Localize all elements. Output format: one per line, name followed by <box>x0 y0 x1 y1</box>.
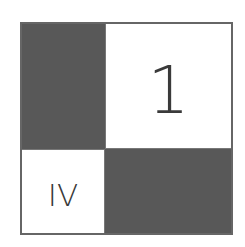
cell-top-left <box>22 24 105 149</box>
cell-bottom-right <box>105 149 231 233</box>
cell-bottom-left: IV <box>22 149 105 233</box>
cell-label-iv: IV <box>22 180 104 211</box>
quadrant-diagram: 1 IV <box>20 22 233 235</box>
cell-label-1: 1 <box>106 58 231 124</box>
cell-top-right: 1 <box>105 24 231 149</box>
